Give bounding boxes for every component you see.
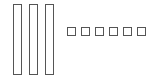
tall-rectangle: [45, 4, 54, 75]
small-square: [137, 27, 146, 36]
small-square: [81, 27, 90, 36]
small-square: [109, 27, 118, 36]
small-square: [123, 27, 132, 36]
tall-rectangle: [13, 4, 22, 75]
tall-rectangle: [29, 4, 38, 75]
small-square: [95, 27, 104, 36]
small-square: [67, 27, 76, 36]
